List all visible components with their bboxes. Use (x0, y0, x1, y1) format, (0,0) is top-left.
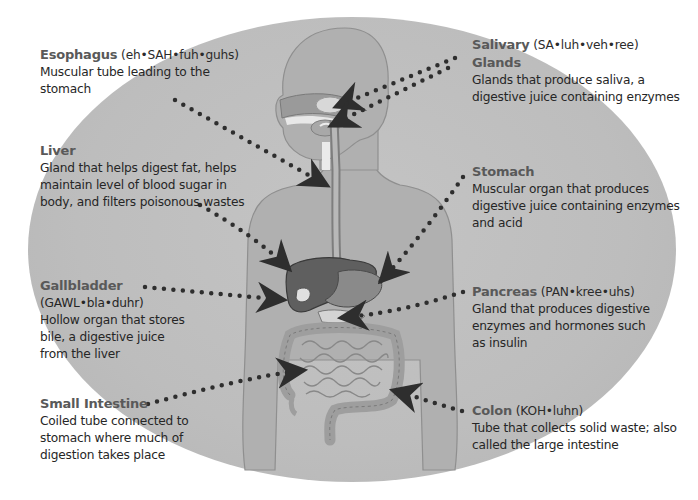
esophagus-pronunciation: (eh•SAH•fuh•guhs) (121, 48, 239, 62)
gallbladder-pronunciation: (GAWL•bla•duhr) (40, 295, 190, 312)
salivary-description: Glands that produce saliva, a digestive … (472, 72, 692, 106)
stomach-description: Muscular organ that produces digestive j… (472, 181, 687, 232)
small-intestine-title: Small Intestine (40, 396, 148, 411)
colon-description: Tube that collects solid waste; also cal… (472, 420, 692, 454)
label-colon: Colon (KOH•luhn) Tube that collects soli… (472, 402, 692, 454)
liver-description: Gland that helps digest fat, helps maint… (40, 160, 260, 211)
pancreas-pronunciation: (PAN•kree•uhs) (541, 285, 635, 299)
appendix (291, 398, 296, 414)
gallbladder-title: Gallbladder (40, 278, 123, 293)
label-salivary-glands: Salivary (SA•luh•veh•ree) Glands Glands … (472, 36, 692, 106)
pancreas-title: Pancreas (472, 284, 537, 299)
gallbladder-description: Hollow organ that stores bile, a digesti… (40, 312, 190, 363)
colon-title: Colon (472, 403, 512, 418)
label-gallbladder: Gallbladder (GAWL•bla•duhr) Hollow organ… (40, 277, 190, 363)
salivary-title: Salivary (472, 37, 530, 52)
gallbladder (296, 288, 310, 302)
label-esophagus: Esophagus (eh•SAH•fuh•guhs) Muscular tub… (40, 46, 250, 98)
label-stomach: Stomach Muscular organ that produces dig… (472, 163, 687, 232)
colon-pronunciation: (KOH•luhn) (516, 404, 583, 418)
esophagus-description: Muscular tube leading to the stomach (40, 64, 250, 98)
salivary-title-line2: Glands (472, 55, 521, 70)
small-intestine-description: Coiled tube connected to stomach where m… (40, 413, 190, 464)
salivary-pronunciation: (SA•luh•veh•ree) (533, 38, 638, 52)
stomach-title: Stomach (472, 164, 534, 179)
label-pancreas: Pancreas (PAN•kree•uhs) Gland that produ… (472, 283, 652, 352)
pancreas-description: Gland that produces digestive enzymes an… (472, 301, 652, 352)
trachea (322, 142, 330, 170)
label-small-intestine: Small Intestine Coiled tube connected to… (40, 395, 190, 464)
esophagus-title: Esophagus (40, 47, 117, 62)
label-liver: Liver Gland that helps digest fat, helps… (40, 142, 260, 211)
liver-title: Liver (40, 143, 75, 158)
